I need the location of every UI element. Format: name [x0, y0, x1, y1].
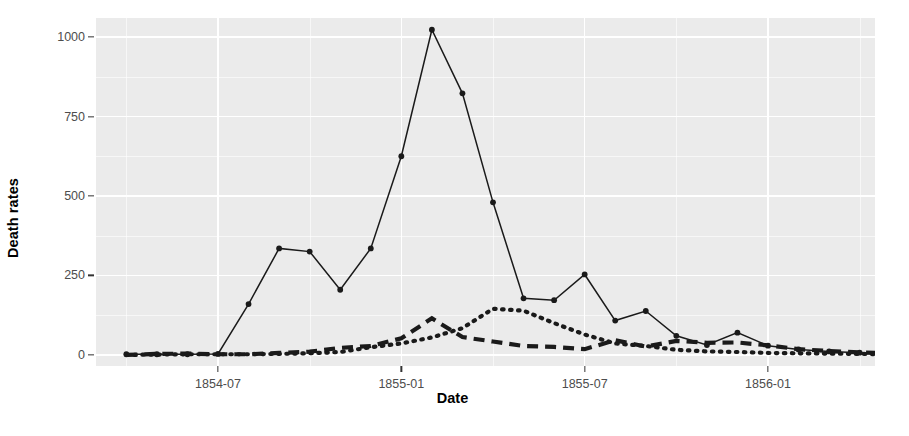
x-tick-mark	[767, 366, 768, 372]
x-tick-mark	[401, 366, 402, 372]
x-tick-label: 1855-07	[562, 377, 608, 391]
nightingale-death-rates-chart: Death rates Date 02505007501000 1854-071…	[0, 0, 909, 436]
x-tick-label: 1856-01	[745, 377, 791, 391]
x-axis-ticks: 1854-071855-011855-071856-01	[0, 0, 909, 436]
x-tick-label: 1854-07	[195, 377, 241, 391]
x-tick-mark	[217, 366, 218, 372]
x-tick-mark	[584, 366, 585, 372]
x-tick-label: 1855-01	[378, 377, 424, 391]
